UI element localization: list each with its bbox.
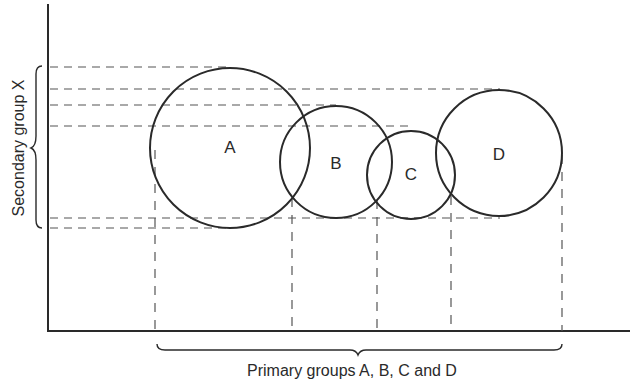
y-axis-label: Secondary group X bbox=[10, 79, 27, 216]
x-axis-label: Primary groups A, B, C and D bbox=[247, 362, 457, 379]
vertical-projection-lines bbox=[155, 150, 562, 331]
left-brace bbox=[31, 66, 42, 228]
overlapping-groups-diagram: A B C D Secondary group X Primary groups… bbox=[0, 0, 636, 391]
label-a: A bbox=[224, 138, 236, 157]
label-b: B bbox=[330, 154, 341, 173]
bottom-brace bbox=[157, 344, 562, 355]
label-c: C bbox=[405, 165, 417, 184]
label-d: D bbox=[493, 145, 505, 164]
horizontal-projection-lines bbox=[50, 67, 500, 228]
